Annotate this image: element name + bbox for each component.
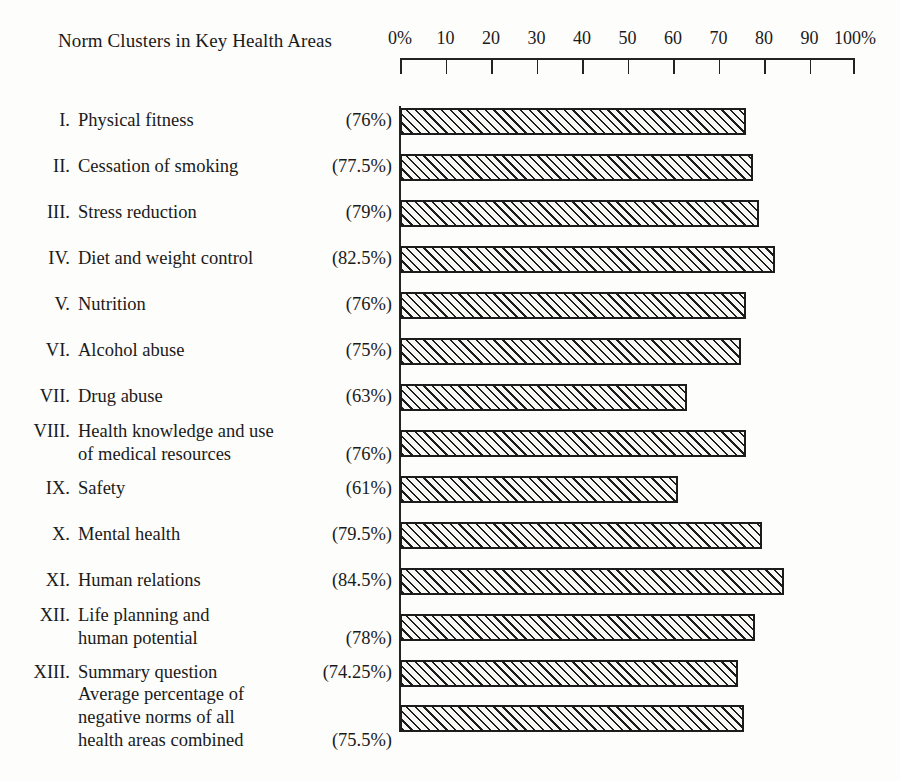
value-label: (61%)	[276, 477, 392, 500]
category-label: IX.Safety	[8, 477, 276, 500]
category-numeral: I.	[8, 109, 70, 132]
value-label: (82.5%)	[276, 247, 392, 270]
category-label-line: negative norms of all	[78, 706, 276, 729]
value-label: (76%)	[276, 109, 392, 132]
category-label: X.Mental health	[8, 523, 276, 546]
category-label: VIII.Health knowledge and useof medical …	[8, 420, 276, 466]
category-label-line: Diet and weight control	[78, 247, 276, 270]
category-label-line: Summary question	[78, 661, 276, 684]
value-label: (76%)	[276, 293, 392, 316]
value-label: (76%)	[276, 443, 392, 466]
category-numeral: XIII.	[8, 661, 70, 684]
category-label-line: Life planning and	[78, 604, 276, 627]
bar	[400, 614, 755, 641]
value-label: (74.25%)	[276, 661, 392, 684]
category-numeral: III.	[8, 201, 70, 224]
category-numeral: II.	[8, 155, 70, 178]
category-label-line: health areas combined	[78, 729, 276, 752]
bar	[400, 154, 753, 181]
value-label: (77.5%)	[276, 155, 392, 178]
category-label-line: Stress reduction	[78, 201, 276, 224]
category-label: XII.Life planning andhuman potential	[8, 604, 276, 650]
value-label: (78%)	[276, 627, 392, 650]
category-label-line: Average percentage of	[78, 683, 276, 706]
bar	[400, 660, 738, 687]
category-label-line: Drug abuse	[78, 385, 276, 408]
category-label-line: Mental health	[78, 523, 276, 546]
category-numeral: XI.	[8, 569, 70, 592]
category-label-line: Physical fitness	[78, 109, 276, 132]
category-label: II.Cessation of smoking	[8, 155, 276, 178]
bar	[400, 568, 784, 595]
category-numeral: VIII.	[8, 420, 70, 443]
value-label: (75%)	[276, 339, 392, 362]
category-label: XIII.Summary question	[8, 661, 276, 684]
chart-page: Norm Clusters in Key Health Areas 0%1020…	[0, 0, 900, 781]
category-label-line: Cessation of smoking	[78, 155, 276, 178]
bar	[400, 476, 678, 503]
value-label: (75.5%)	[276, 729, 392, 752]
category-label: XI.Human relations	[8, 569, 276, 592]
value-label: (79%)	[276, 201, 392, 224]
category-label-line: Health knowledge and use	[78, 420, 276, 443]
category-label-line: Safety	[78, 477, 276, 500]
bar	[400, 338, 741, 365]
plot-area: I.Physical fitness(76%)II.Cessation of s…	[0, 0, 900, 781]
bar	[400, 522, 762, 549]
category-numeral: VI.	[8, 339, 70, 362]
bar	[400, 200, 759, 227]
category-numeral: V.	[8, 293, 70, 316]
category-label: VII.Drug abuse	[8, 385, 276, 408]
category-label: III.Stress reduction	[8, 201, 276, 224]
category-label: Average percentage ofnegative norms of a…	[8, 683, 276, 752]
category-label-line: Human relations	[78, 569, 276, 592]
value-label: (63%)	[276, 385, 392, 408]
value-label: (79.5%)	[276, 523, 392, 546]
category-label: I.Physical fitness	[8, 109, 276, 132]
bar	[400, 108, 746, 135]
category-numeral: IX.	[8, 477, 70, 500]
category-numeral: XII.	[8, 604, 70, 627]
category-label-line: Alcohol abuse	[78, 339, 276, 362]
bar	[400, 384, 687, 411]
category-label: VI.Alcohol abuse	[8, 339, 276, 362]
bar	[400, 246, 775, 273]
category-label: V.Nutrition	[8, 293, 276, 316]
category-numeral: IV.	[8, 247, 70, 270]
bar	[400, 430, 746, 457]
value-label: (84.5%)	[276, 569, 392, 592]
category-numeral: VII.	[8, 385, 70, 408]
bar	[400, 705, 744, 732]
category-label-line: of medical resources	[78, 443, 276, 466]
category-label-line: human potential	[78, 627, 276, 650]
category-label-line: Nutrition	[78, 293, 276, 316]
category-label: IV.Diet and weight control	[8, 247, 276, 270]
bar	[400, 292, 746, 319]
category-numeral: X.	[8, 523, 70, 546]
